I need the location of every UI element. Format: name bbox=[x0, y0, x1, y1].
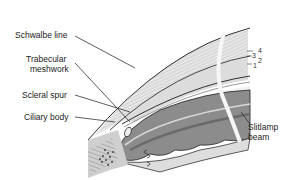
layer-number-2: 2 bbox=[258, 57, 262, 64]
leader-trabecular bbox=[75, 63, 130, 122]
layer-number-4: 4 bbox=[258, 47, 262, 54]
label-trabecular-2: meshwork bbox=[30, 64, 69, 74]
label-slitlamp-2: beam bbox=[248, 132, 269, 142]
label-ciliary-body: Ciliary body bbox=[24, 112, 68, 122]
label-trabecular-1: Trabecular bbox=[26, 54, 66, 64]
layer-number-1: 1 bbox=[253, 62, 257, 69]
leader-schwalbe bbox=[75, 36, 135, 68]
layer-number-3: 3 bbox=[252, 52, 256, 59]
label-schwalbe-line: Schwalbe line bbox=[15, 30, 67, 40]
label-slitlamp-1: Slitlamp bbox=[248, 122, 278, 132]
label-scleral-spur: Scleral spur bbox=[22, 90, 67, 100]
